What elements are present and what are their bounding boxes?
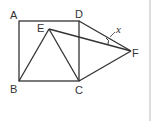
label-e: E bbox=[37, 22, 44, 34]
geometry-diagram: A D E B C F x bbox=[0, 0, 153, 121]
segment-df bbox=[79, 21, 131, 51]
segment-cf bbox=[79, 51, 131, 81]
label-a: A bbox=[10, 9, 18, 21]
label-d: D bbox=[75, 8, 83, 20]
angle-pointer bbox=[110, 32, 115, 37]
label-angle-x: x bbox=[115, 23, 121, 35]
label-b: B bbox=[10, 83, 17, 95]
angle-arc-x bbox=[106, 38, 109, 44]
label-c: C bbox=[75, 84, 83, 96]
label-f: F bbox=[132, 47, 139, 59]
segment-be bbox=[19, 29, 49, 81]
segment-ec bbox=[49, 29, 79, 81]
